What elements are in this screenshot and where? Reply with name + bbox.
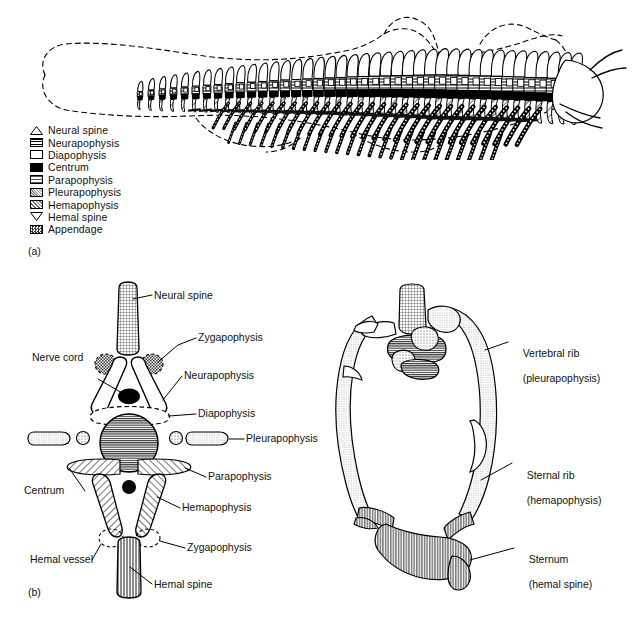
legend-label: Parapophysis	[48, 174, 113, 186]
legend-item-pleurapophysis: Pleurapophysis	[30, 186, 121, 198]
figure-root: (a) (b) Neural spine Neurapophysis Diapo…	[0, 0, 635, 622]
fish-centrum	[148, 95, 154, 100]
fish-centrum	[159, 95, 166, 100]
fish-neural-spine	[259, 63, 268, 81]
fish-diapophysis	[150, 91, 153, 94]
fish-hemapophysis	[170, 99, 173, 111]
legend-swatch-solid-black-icon	[30, 163, 43, 172]
label-vertebral-rib-line2: (pleurapophysis)	[523, 372, 601, 384]
fish-hemapophysis	[148, 100, 151, 110]
ribcage-process-left-small	[354, 322, 378, 334]
fish-neural-spine	[391, 51, 403, 75]
legend-item-centrum: Centrum	[30, 161, 121, 173]
fish-neural-spine	[402, 50, 414, 75]
fish-diapophysis	[184, 88, 188, 92]
label-zygapophysis-top: Zygapophysis	[198, 331, 263, 344]
fish-diapophysis	[373, 78, 379, 84]
vertebrae-repeat-group	[137, 49, 626, 160]
fish-centrum	[357, 89, 369, 97]
label-vertebral-rib-line1: Vertebral rib	[523, 347, 580, 359]
legend-label: Diapophysis	[48, 149, 106, 161]
legend-item-diapophysis: Diapophysis	[30, 149, 121, 161]
nerve-cord-shape	[118, 389, 140, 405]
label-sternum-line1: Sternum	[529, 553, 569, 565]
fish-appendage	[200, 110, 211, 111]
legend-label: Neurapophysis	[48, 137, 119, 149]
legend-item-neurapophysis: Neurapophysis	[30, 136, 121, 148]
fish-centrum	[324, 90, 335, 97]
fish-diapophysis	[362, 79, 368, 85]
fish-neural-spine	[303, 58, 313, 79]
fish-neural-spine	[358, 54, 369, 77]
fish-centrum	[313, 90, 324, 97]
parapophysis-right-shape	[138, 459, 191, 475]
label-neural-spine: Neural spine	[154, 289, 213, 302]
fish-neural-spine	[347, 54, 358, 77]
fish-diapophysis	[473, 78, 479, 85]
hemal-vessel-shape	[122, 480, 136, 494]
fish-diapophysis	[250, 84, 255, 89]
fish-centrum	[302, 90, 313, 97]
legend-label: Pleurapophysis	[48, 186, 121, 198]
fish-diapophysis	[417, 77, 423, 84]
fish-centrum	[170, 94, 177, 99]
fish-diapophysis	[540, 80, 546, 87]
facet-left-shape	[77, 432, 90, 445]
legend-swatch-coarse-stipple-icon	[30, 200, 43, 209]
fish-hemapophysis	[181, 99, 185, 111]
fish-diapophysis	[206, 86, 210, 90]
fish-diapophysis	[217, 86, 221, 91]
label-sternal-rib-line1: Sternal rib	[527, 469, 575, 481]
label-sternal-rib-line2: (hemapophysis)	[527, 494, 602, 506]
fish-neural-spine	[149, 78, 155, 90]
fish-diapophysis	[239, 84, 243, 89]
fish-centrum	[280, 90, 290, 97]
fish-centrum	[412, 89, 425, 97]
label-hemapophysis: Hemapophysis	[182, 501, 251, 514]
fish-centrum	[291, 90, 301, 97]
fish-diapophysis	[162, 90, 165, 94]
fish-centrum	[181, 94, 188, 99]
legend-swatch-fine-stipple-icon	[30, 188, 43, 197]
panel-a-tag: (a)	[28, 245, 41, 257]
fish-neural-spine	[204, 70, 212, 85]
label-diapophysis: Diapophysis	[198, 407, 255, 420]
label-nerve-cord: Nerve cord	[32, 351, 83, 364]
fish-neural-spine	[138, 81, 143, 91]
fish-neural-spine	[270, 62, 279, 81]
fish-centrum	[258, 91, 267, 98]
label-sternum: Sternum (hemal spine)	[517, 540, 592, 603]
fish-diapophysis	[262, 83, 267, 88]
hemapophysis-right-shape	[136, 474, 166, 537]
vertebral-rib-right-shape	[448, 308, 497, 519]
fish-diapophysis	[351, 79, 357, 85]
fish-diapophysis	[451, 77, 457, 84]
legend-item-hemapophysis: Hemapophysis	[30, 198, 121, 210]
fish-centrum	[192, 93, 200, 99]
legend-label: Hemal spine	[48, 211, 107, 223]
legend-item-appendage: Appendage	[30, 223, 121, 235]
fish-centrum	[236, 92, 245, 98]
fish-diapophysis	[306, 81, 311, 87]
fish-diapophysis	[518, 79, 524, 86]
neural-spine-shape	[117, 282, 139, 355]
legend: Neural spine Neurapophysis Diapophysis C…	[30, 124, 121, 236]
fish-diapophysis	[507, 79, 513, 86]
fish-neural-spine	[237, 66, 246, 83]
fish-centrum	[401, 89, 414, 97]
pleurapophysis-right-shape	[186, 432, 228, 445]
fish-neural-spine	[336, 55, 347, 77]
sternal-rib-right-shape	[444, 512, 474, 540]
fish-diapophysis	[295, 81, 300, 86]
fish-diapophysis	[339, 79, 345, 85]
fish-centrum	[203, 93, 211, 99]
fish-centrum	[247, 91, 256, 97]
label-neurapophysis: Neurapophysis	[184, 369, 254, 382]
fish-neural-spine	[314, 57, 325, 78]
legend-label: Hemapophysis	[48, 199, 119, 211]
legend-label: Centrum	[48, 161, 89, 173]
pleurapophysis-left-shape	[28, 432, 70, 445]
fish-diapophysis	[406, 78, 412, 85]
legend-swatch-light-lines-icon	[30, 175, 43, 184]
hemal-spine-shape	[117, 537, 141, 598]
